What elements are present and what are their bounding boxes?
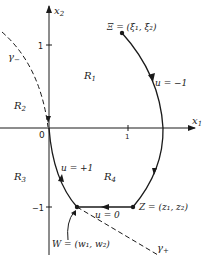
u-plus-label: u = +1 [61,163,93,173]
point-w-label: W = (w₁, w₂) [52,239,110,249]
region-r3-label: R3 [13,171,27,184]
x2-axis-label: x2 [54,5,65,18]
region-r2-label: R2 [13,100,27,113]
u-zero-label: u = 0 [95,210,120,220]
w-pointer-line [68,212,74,240]
region-r4-label: R4 [103,171,116,184]
point-xi-label: Ξ = (ξ₁, ξ₂) [106,22,157,32]
switching-curve-diagram: x2 x1 0 1 −1 1 R1 R2 R3 R4 γ− γ+ u = −1 … [0,0,202,269]
u-minus-label: u = −1 [155,78,187,88]
point-w [75,205,79,209]
x2-tick-label-1: 1 [38,42,43,51]
point-z-label: Z = (z₁, z₂) [138,202,188,212]
u-minus-trajectory [122,33,163,207]
x1-tick-label-1: 1 [125,133,129,141]
gamma-minus-label: γ− [8,51,20,64]
x2-tick-label-neg1: −1 [32,204,44,213]
x1-axis-label: x1 [192,115,202,128]
point-z [131,205,135,209]
origin-label: 0 [39,130,45,140]
gamma-plus-label: γ+ [157,242,169,255]
region-r1-label: R1 [83,70,96,83]
